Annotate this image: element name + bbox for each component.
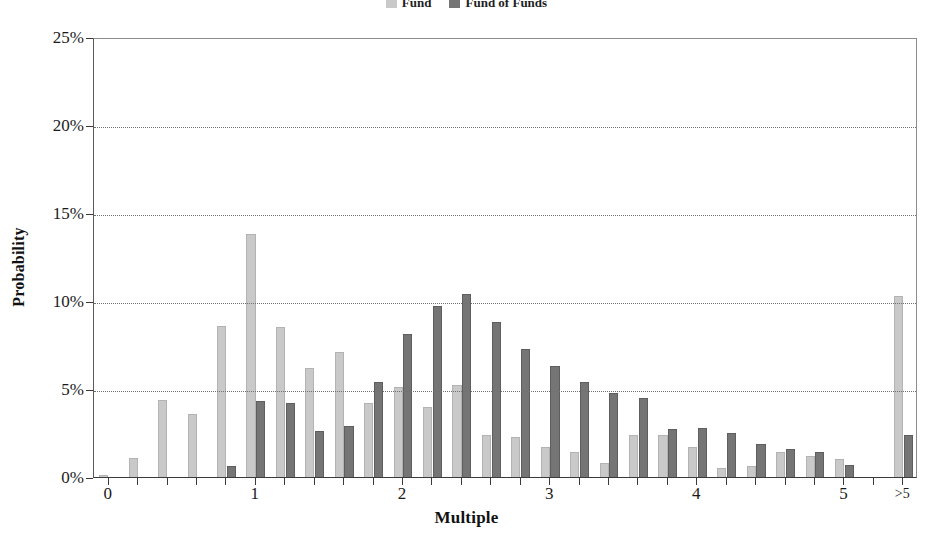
bar-fund-of-funds — [815, 452, 824, 477]
bar-fund — [246, 234, 255, 477]
x-axis-tick-label: 4 — [692, 484, 701, 504]
bar-fund-of-funds — [550, 366, 559, 477]
bar-fund-of-funds — [786, 449, 795, 477]
bar-fund-of-funds — [227, 466, 236, 477]
bar-fund — [394, 387, 403, 477]
bar-fund-of-funds — [286, 403, 295, 477]
x-axis-tick-label: >5 — [895, 484, 910, 504]
chart-legend: Fund Fund of Funds — [0, 0, 933, 11]
legend-item-fund: Fund — [386, 0, 432, 9]
bar-fund — [688, 447, 697, 477]
x-axis-tick-label: 2 — [398, 484, 407, 504]
bar-fund-of-funds — [727, 433, 736, 477]
gridline — [94, 391, 916, 392]
bar-fund-of-funds — [698, 428, 707, 477]
bar-fund — [541, 447, 550, 477]
bar-fund — [158, 400, 167, 477]
bar-fund-of-funds — [904, 435, 913, 477]
x-axis-tick-label: 3 — [545, 484, 554, 504]
x-axis-tick-label: 0 — [103, 484, 112, 504]
chart-figure: Fund Fund of Funds 0%5%10%15%20%25% 0123… — [0, 0, 933, 537]
plot-area — [93, 38, 917, 478]
bar-fund — [776, 452, 785, 477]
bar-fund-of-funds — [374, 382, 383, 477]
bar-fund-of-funds — [845, 465, 854, 477]
bar-fund — [511, 437, 520, 477]
bar-fund — [217, 326, 226, 477]
bar-fund-of-funds — [639, 398, 648, 477]
y-axis-tick — [86, 390, 93, 391]
bar-fund-of-funds — [315, 431, 324, 477]
bar-fund — [747, 466, 756, 477]
gridline — [94, 303, 916, 304]
bar-fund-of-funds — [492, 322, 501, 477]
bar-fund-of-funds — [668, 429, 677, 477]
legend-label-fund-of-funds: Fund of Funds — [465, 0, 547, 9]
bar-fund-of-funds — [609, 393, 618, 477]
x-axis-tick-label: 1 — [251, 484, 260, 504]
y-axis-tick-label: 25% — [6, 29, 84, 47]
bar-fund-of-funds — [462, 294, 471, 477]
bar-fund — [600, 463, 609, 477]
y-axis-tick — [86, 478, 93, 479]
bar-fund — [364, 403, 373, 477]
y-axis-tick — [86, 302, 93, 303]
bar-fund — [188, 414, 197, 477]
bar-fund — [629, 435, 638, 477]
y-axis-tick — [86, 126, 93, 127]
bar-fund — [452, 385, 461, 477]
bar-fund — [305, 368, 314, 477]
legend-item-fund-of-funds: Fund of Funds — [449, 0, 547, 9]
bar-fund — [570, 452, 579, 477]
bar-fund — [482, 435, 491, 477]
bar-fund — [99, 475, 108, 477]
gridline — [94, 215, 916, 216]
legend-swatch-fund — [386, 0, 397, 8]
bar-fund-of-funds — [756, 444, 765, 477]
legend-label-fund: Fund — [402, 0, 432, 9]
y-axis-tick — [86, 214, 93, 215]
bar-fund-of-funds — [580, 382, 589, 477]
x-axis-title: Multiple — [0, 508, 933, 528]
bar-fund — [894, 296, 903, 477]
bar-fund-of-funds — [344, 426, 353, 477]
y-axis-title: Probability — [10, 172, 28, 362]
legend-swatch-fund-of-funds — [449, 0, 460, 8]
bar-fund-of-funds — [403, 334, 412, 477]
y-axis-tick — [86, 38, 93, 39]
bar-fund-of-funds — [521, 349, 530, 477]
bar-fund-of-funds — [256, 401, 265, 477]
bar-fund — [717, 468, 726, 477]
bar-fund — [129, 458, 138, 477]
bar-fund — [835, 459, 844, 477]
x-axis-tick-label: 5 — [839, 484, 848, 504]
bar-fund — [276, 327, 285, 477]
bar-fund — [335, 352, 344, 477]
gridline — [94, 127, 916, 128]
bar-fund — [423, 407, 432, 477]
y-axis-tick-label: 20% — [6, 117, 84, 135]
y-axis-tick-label: 5% — [6, 381, 84, 399]
bar-fund — [806, 456, 815, 477]
bar-series-container — [94, 39, 916, 477]
bar-fund — [658, 435, 667, 477]
x-axis-tick-labels: 012345>5 — [0, 484, 933, 506]
